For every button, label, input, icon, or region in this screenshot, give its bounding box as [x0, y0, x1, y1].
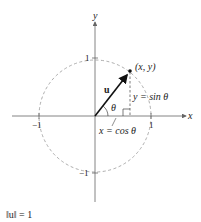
unit-circle-diagram: y x −1 1 1 −1 u (x, y) θ y = sin θ x = c… [0, 0, 201, 222]
point-xy [128, 69, 132, 73]
sin-label: y = sin θ [132, 91, 168, 102]
vector-label: u [104, 84, 110, 95]
y-axis-label: y [92, 10, 98, 21]
x-axis-label: x [187, 110, 193, 121]
tick-label-y-pos: 1 [85, 53, 90, 63]
angle-arc [103, 106, 108, 116]
right-angle-marker [123, 109, 130, 116]
tick-label-x-neg: −1 [32, 120, 42, 130]
norm-caption: ‖u‖ = 1 [6, 209, 32, 220]
tick-label-x-pos: 1 [149, 120, 154, 130]
tick-label-y-neg: −1 [79, 168, 89, 178]
point-label: (x, y) [135, 61, 156, 73]
angle-label: θ [111, 102, 116, 113]
cos-label: x = cos θ [98, 125, 136, 136]
